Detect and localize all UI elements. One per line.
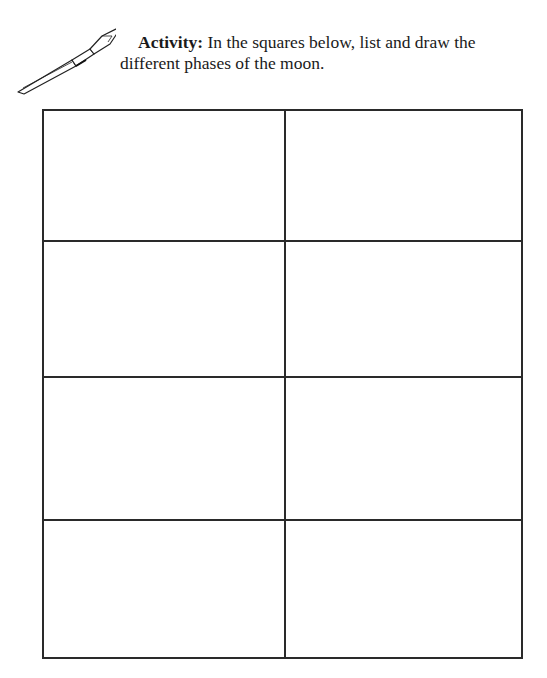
grid-cell[interactable] [44, 521, 286, 657]
grid-cell[interactable] [44, 378, 286, 521]
moon-phases-grid [42, 109, 523, 659]
grid-cell[interactable] [286, 521, 521, 657]
activity-label: Activity: [120, 32, 203, 52]
grid-cell[interactable] [44, 111, 286, 242]
grid-cell[interactable] [286, 111, 521, 242]
fountain-pen-icon [14, 22, 116, 96]
grid-cell[interactable] [286, 242, 521, 378]
grid-cell[interactable] [286, 378, 521, 521]
grid-cell[interactable] [44, 242, 286, 378]
activity-instructions: Activity: In the squares below, list and… [120, 32, 520, 74]
